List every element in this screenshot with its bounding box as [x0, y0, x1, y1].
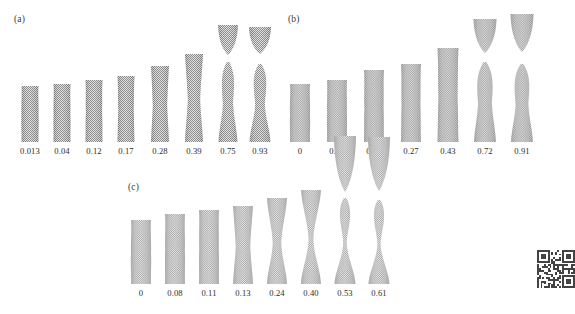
specimen-body-shading: [233, 206, 253, 284]
specimen-render: [191, 210, 227, 288]
specimen-render: [225, 206, 261, 288]
specimen-body-shading: [267, 198, 287, 284]
strain-label-c-0: 0: [139, 288, 143, 298]
strain-label-c-7: 0.61: [371, 288, 386, 298]
specimen-render: [157, 214, 193, 288]
strain-label-c-6: 0.53: [337, 288, 352, 298]
fracture-upper-shading: [334, 136, 356, 192]
strain-label-c-3: 0.13: [235, 288, 250, 298]
specimen-render: [361, 137, 397, 288]
panel-label-c: (c): [128, 182, 139, 192]
specimen-c-2: [191, 210, 227, 288]
specimen-c-0: [123, 220, 159, 288]
specimen-body-shading: [165, 214, 185, 284]
strain-label-c-1: 0.08: [167, 288, 182, 298]
specimen-render: [293, 190, 329, 288]
specimen-c-7: [361, 137, 397, 288]
specimen-c-6: [327, 136, 363, 288]
specimen-body-shading: [301, 190, 321, 284]
specimen-c-5: [293, 190, 329, 288]
strain-label-c-4: 0.24: [269, 288, 284, 298]
fracture-upper-shading: [368, 137, 390, 191]
specimen-body-shading: [131, 220, 151, 284]
specimen-c-1: [157, 214, 193, 288]
strain-label-c-2: 0.11: [201, 288, 216, 298]
specimen-body-shading: [335, 198, 356, 284]
strain-label-c-5: 0.40: [303, 288, 318, 298]
specimen-render: [327, 136, 363, 288]
specimen-render: [123, 220, 159, 288]
specimen-c-4: [259, 198, 295, 288]
specimen-c-3: [225, 206, 261, 288]
specimen-render: [259, 198, 295, 288]
qr-code-watermark: [537, 250, 575, 288]
specimen-body-shading: [199, 210, 219, 284]
specimen-body-shading: [369, 200, 390, 284]
